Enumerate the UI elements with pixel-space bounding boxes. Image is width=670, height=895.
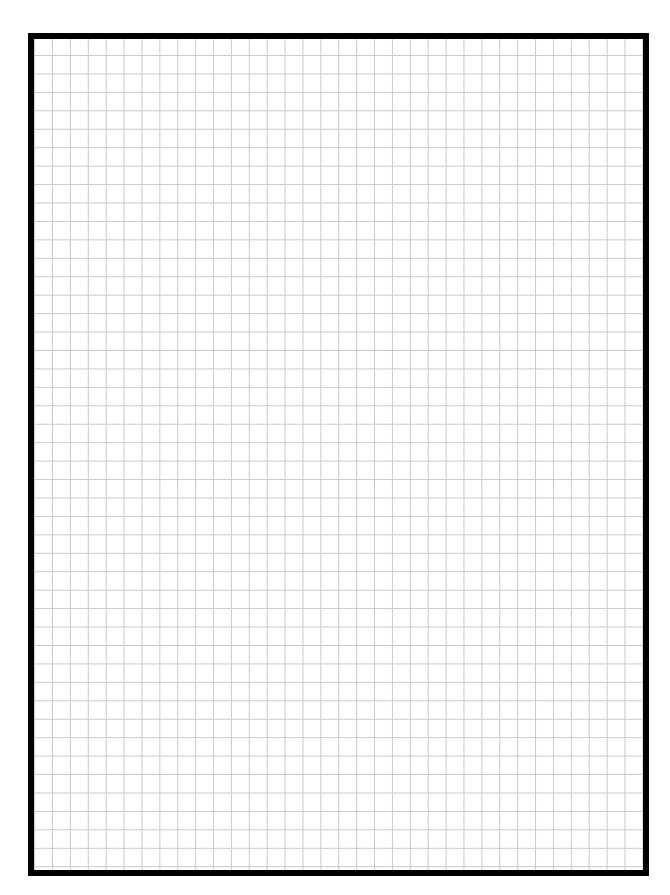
- graph-paper-grid: [28, 33, 649, 876]
